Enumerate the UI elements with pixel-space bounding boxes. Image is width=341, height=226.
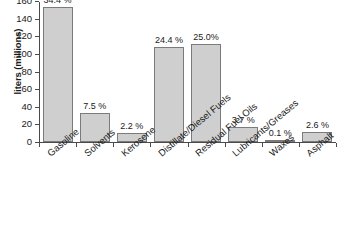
y-axis-tick-label: 0 [27, 136, 32, 147]
x-axis-tick [39, 143, 40, 147]
y-axis-tick-label: 80 [21, 66, 32, 77]
x-axis-tick [336, 143, 337, 147]
bar-value-label: 25.0% [193, 32, 219, 42]
y-axis-line [39, 2, 40, 143]
x-axis-tick [188, 143, 189, 147]
y-axis-tick-label: 140 [16, 13, 32, 24]
y-axis-tick: 20 [35, 124, 39, 125]
bar-value-label: 24.4 % [155, 35, 183, 45]
y-axis-tick-label: 160 [16, 0, 32, 6]
y-axis-tick: 140 [35, 19, 39, 20]
bar-value-label: 2.2 % [120, 121, 143, 131]
y-axis-tick: 60 [35, 89, 39, 90]
y-axis-tick: 160 [35, 1, 39, 2]
bar-value-label: 2.6 % [306, 120, 329, 130]
x-axis-tick [299, 143, 300, 147]
bar-chart: liters (millions) 020406080100120140160 … [0, 0, 341, 226]
bar: 34.4 % [43, 7, 73, 142]
bar: 24.4 % [154, 47, 184, 142]
y-axis-tick: 100 [35, 54, 39, 55]
x-axis-tick [150, 143, 151, 147]
y-axis-tick: 40 [35, 107, 39, 108]
y-axis-tick-label: 120 [16, 30, 32, 41]
y-axis-tick-label: 40 [21, 101, 32, 112]
x-axis-tick [113, 143, 114, 147]
bar-value-label: 7.5 % [83, 101, 106, 111]
y-axis-tick-label: 60 [21, 83, 32, 94]
y-axis-tick: 80 [35, 72, 39, 73]
y-axis-tick-label: 20 [21, 118, 32, 129]
x-axis-tick [76, 143, 77, 147]
x-axis-tick [225, 143, 226, 147]
y-axis-tick: 120 [35, 36, 39, 37]
x-axis-tick [262, 143, 263, 147]
bar-value-label: 34.4 % [44, 0, 72, 5]
y-axis-tick-label: 100 [16, 48, 32, 59]
